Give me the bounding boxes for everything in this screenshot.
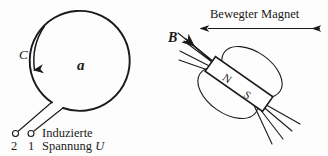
- induction-figure: a C B N S Bewegter Magnet 2 1 Induzierte…: [0, 0, 328, 156]
- terminal-2-ring: [13, 131, 19, 137]
- induced-caption-line1: Induzierte: [42, 127, 93, 140]
- terminal-1-number: 1: [28, 140, 34, 153]
- terminal-2-number: 2: [11, 140, 17, 153]
- motion-caption: Bewegter Magnet: [210, 8, 299, 21]
- contour-label: C: [19, 48, 28, 61]
- magnetic-field-label: B: [168, 31, 177, 45]
- terminal-1-ring: [28, 131, 34, 137]
- loop-area-label: a: [77, 58, 85, 73]
- voltage-symbol: U: [95, 139, 104, 153]
- conducting-loop-group: [13, 11, 130, 137]
- magnet-bar: [205, 57, 273, 112]
- induced-caption-word: Spannung: [42, 139, 92, 153]
- magnet-group: [178, 29, 320, 145]
- induced-caption-line2: Spannung U: [42, 140, 104, 153]
